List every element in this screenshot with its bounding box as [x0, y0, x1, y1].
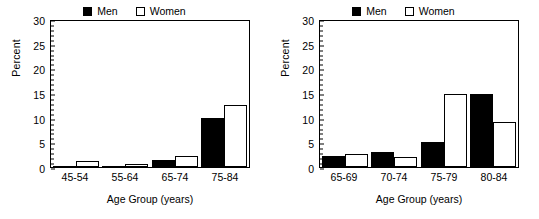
- y-axis-minor-tickmark: [320, 55, 323, 56]
- y-axis-tick-15: 15: [302, 90, 320, 101]
- bar-group-80-84: [469, 21, 519, 167]
- y-axis-minor-tickmark: [51, 104, 54, 105]
- y-axis-minor-tickmark: [51, 129, 54, 130]
- y-axis-tickmark-10: [320, 119, 324, 120]
- bar-group-45-54: [51, 21, 101, 167]
- y-axis-minor-tickmark: [320, 85, 323, 86]
- bar-men-80-84: [470, 94, 493, 167]
- y-axis-minor-tickmark: [51, 124, 54, 125]
- y-axis-minor-tickmark: [320, 159, 323, 160]
- y-axis-minor-tickmark: [51, 139, 54, 140]
- bar-group-75-79: [419, 21, 469, 167]
- chart-panel-left: Men Women Percent 051015202530 45-5455-6…: [0, 0, 269, 219]
- plot-frame-right: 051015202530: [319, 20, 519, 168]
- y-axis-minor-tickmark: [320, 104, 323, 105]
- y-axis-minor-tickmark: [51, 99, 54, 100]
- bar-women-70-74: [394, 157, 417, 167]
- y-axis-tick-25: 25: [302, 40, 320, 51]
- y-axis-minor-tickmark: [51, 65, 54, 66]
- y-axis-tickmark-0: [51, 169, 55, 170]
- x-axis-tick-65-69: 65-69: [319, 172, 369, 183]
- y-axis-minor-tickmark: [320, 134, 323, 135]
- y-axis-tick-25: 25: [33, 40, 51, 51]
- y-axis-minor-tickmark: [51, 25, 54, 26]
- bar-group-65-69: [320, 21, 370, 167]
- y-axis-minor-tickmark: [320, 124, 323, 125]
- y-axis-minor-tickmark: [51, 85, 54, 86]
- y-axis-tick-10: 10: [302, 114, 320, 125]
- y-axis-minor-tickmark: [51, 75, 54, 76]
- bar-women-55-64: [125, 164, 148, 167]
- y-axis-tickmark-25: [320, 45, 324, 46]
- y-axis-minor-tickmark: [51, 134, 54, 135]
- y-axis-minor-tickmark: [320, 129, 323, 130]
- y-axis-minor-tickmark: [320, 164, 323, 165]
- bar-men-75-79: [421, 142, 444, 167]
- x-axis-tick-45-54: 45-54: [50, 172, 100, 183]
- y-axis-tickmark-15: [320, 95, 324, 96]
- bar-women-65-74: [175, 156, 198, 167]
- bar-group-75-84: [200, 21, 250, 167]
- y-axis-minor-tickmark: [320, 109, 323, 110]
- y-axis-minor-tickmark: [51, 109, 54, 110]
- y-axis-minor-tickmark: [320, 114, 323, 115]
- x-axis-tick-65-74: 65-74: [150, 172, 200, 183]
- y-axis-minor-tickmark: [320, 99, 323, 100]
- bar-group-65-74: [150, 21, 200, 167]
- two-panel-bar-chart-figure: Men Women Percent 051015202530 45-5455-6…: [0, 0, 539, 219]
- bar-group-container-right: [320, 21, 518, 167]
- x-axis-label-left: Age Group (years): [50, 194, 250, 205]
- bar-group-70-74: [370, 21, 420, 167]
- y-axis-minor-tickmark: [320, 60, 323, 61]
- y-axis-label-left: Percent: [10, 18, 22, 98]
- bar-women-45-54: [76, 161, 99, 167]
- y-axis-tickmark-15: [51, 95, 55, 96]
- y-axis-minor-tickmark: [51, 90, 54, 91]
- y-axis-minor-tickmark: [51, 40, 54, 41]
- y-axis-tick-30: 30: [33, 16, 51, 27]
- y-axis-tick-15: 15: [33, 90, 51, 101]
- bar-women-65-69: [345, 154, 368, 167]
- x-axis-tick-80-84: 80-84: [469, 172, 519, 183]
- y-axis-tick-5: 5: [39, 139, 51, 150]
- y-axis-minor-tickmark: [320, 80, 323, 81]
- y-axis-tick-10: 10: [33, 114, 51, 125]
- y-axis-minor-tickmark: [51, 164, 54, 165]
- y-axis-minor-tickmark: [51, 149, 54, 150]
- bar-women-75-79: [444, 94, 467, 167]
- x-axis-tick-70-74: 70-74: [369, 172, 419, 183]
- x-axis-tick-labels-left: 45-5455-6465-7475-84: [50, 172, 250, 183]
- y-axis-tickmark-10: [51, 119, 55, 120]
- y-axis-minor-tickmark: [51, 60, 54, 61]
- y-axis-tickmark-0: [320, 169, 324, 170]
- y-axis-minor-tickmark: [51, 35, 54, 36]
- y-axis-minor-tickmark: [320, 65, 323, 66]
- plot-area-left: Percent 051015202530 45-5455-6465-7475-8…: [0, 0, 269, 219]
- y-axis-minor-tickmark: [51, 154, 54, 155]
- y-axis-minor-tickmark: [320, 35, 323, 36]
- bar-men-65-69: [322, 156, 345, 167]
- y-axis-minor-tickmark: [320, 149, 323, 150]
- x-axis-label-right: Age Group (years): [319, 194, 519, 205]
- y-axis-tickmark-30: [320, 21, 324, 22]
- y-axis-tickmark-5: [320, 144, 324, 145]
- y-axis-tickmark-20: [320, 70, 324, 71]
- bar-group-container-left: [51, 21, 249, 167]
- bar-men-70-74: [371, 152, 394, 167]
- y-axis-minor-tickmark: [320, 139, 323, 140]
- bar-group-55-64: [101, 21, 151, 167]
- y-axis-tick-20: 20: [33, 65, 51, 76]
- x-axis-tick-55-64: 55-64: [100, 172, 150, 183]
- y-axis-minor-tickmark: [51, 50, 54, 51]
- bar-men-45-54: [53, 166, 76, 167]
- plot-area-right: Percent 051015202530 65-6970-7475-7980-8…: [269, 0, 538, 219]
- bar-women-80-84: [493, 122, 516, 167]
- y-axis-minor-tickmark: [51, 80, 54, 81]
- x-axis-tick-75-79: 75-79: [419, 172, 469, 183]
- y-axis-label-right: Percent: [279, 18, 291, 98]
- bar-women-75-84: [224, 105, 247, 167]
- bar-men-55-64: [102, 166, 125, 167]
- y-axis-minor-tickmark: [51, 159, 54, 160]
- y-axis-tickmark-30: [51, 21, 55, 22]
- y-axis-tick-20: 20: [302, 65, 320, 76]
